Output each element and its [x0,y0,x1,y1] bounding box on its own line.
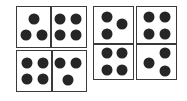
pip [117,48,128,59]
pip [29,14,40,25]
pip [71,58,82,69]
pip [160,66,171,77]
pip [117,65,128,76]
pip [102,48,113,59]
pip [22,58,33,69]
pip [117,19,128,30]
domino-tile-b [16,50,87,92]
tile-divider [137,43,176,45]
pip [21,30,32,41]
pip [38,58,49,69]
pip [102,29,113,40]
tile-divider [50,7,52,47]
pip [38,74,49,85]
pip [55,58,66,69]
pip [160,29,171,40]
pip [144,58,155,69]
pip [144,29,155,40]
domino-tile-d [136,6,177,80]
pip [160,12,171,23]
pip [160,48,171,59]
pip [102,65,113,76]
tile-divider [51,51,53,91]
pip [71,14,82,25]
pip [71,30,82,41]
domino-tile-c [93,6,134,80]
domino-tile-a [16,6,87,48]
pip [102,12,113,23]
tile-divider [94,43,133,45]
pip [144,12,155,23]
pip [22,74,33,85]
pip [63,75,74,86]
pip [55,30,66,41]
pip [37,30,48,41]
pip [55,14,66,25]
